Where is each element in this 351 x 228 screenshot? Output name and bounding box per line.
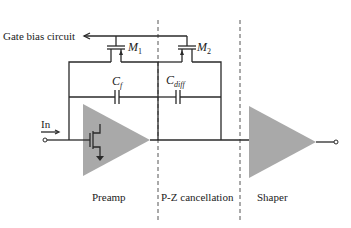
output-terminal	[334, 140, 338, 144]
shaper-amplifier	[249, 106, 316, 178]
input-label: In	[41, 118, 51, 130]
section-label-shaper: Shaper	[257, 191, 288, 203]
arrow-icon	[119, 50, 123, 55]
cdiff-label: Cdiff	[166, 73, 186, 89]
section-label-preamp: Preamp	[92, 191, 126, 203]
cf-label: Cf	[112, 74, 124, 90]
transistor-m2	[178, 46, 196, 62]
gate-bias-label: Gate bias circuit	[3, 30, 75, 42]
circuit-diagram: Gate bias circuit M1 M2 Cf Cdiff	[0, 0, 351, 228]
arrow-icon	[180, 50, 184, 55]
section-label-pz: P-Z cancellation	[161, 191, 234, 203]
input-terminal	[43, 138, 47, 142]
m2-label: M2	[196, 40, 211, 56]
input-arrow-icon	[41, 130, 59, 134]
m1-label: M1	[127, 40, 142, 56]
transistor-m1	[107, 46, 125, 62]
